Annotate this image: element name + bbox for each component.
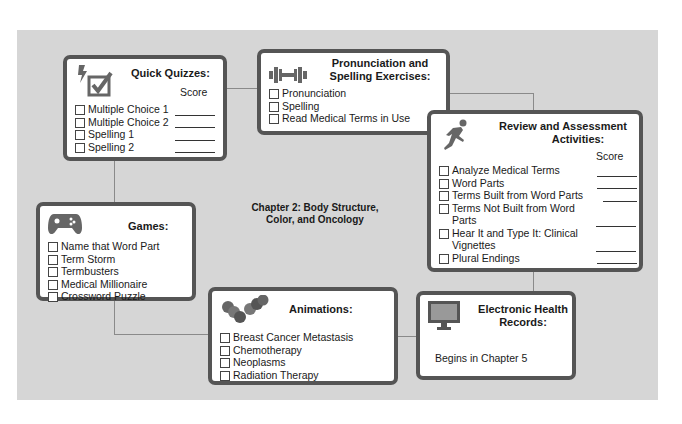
checkbox[interactable] — [48, 255, 58, 265]
ehr-title: Electronic Health Records: — [478, 303, 568, 328]
checkbox[interactable] — [439, 204, 449, 214]
list-item[interactable]: Spelling 1 — [75, 128, 215, 141]
list-item[interactable]: Name that Word Part — [48, 240, 193, 253]
animations-box: Animations: Breast Cancer Metastasis Che… — [208, 287, 398, 385]
list-item[interactable]: Analyze Medical Terms — [439, 164, 637, 177]
checkbox[interactable] — [439, 254, 449, 264]
checkbox[interactable] — [439, 229, 449, 239]
pronunciation-box: Pronunciation and Spelling Exercises: Pr… — [257, 49, 450, 135]
checkbox[interactable] — [220, 358, 230, 368]
list-item[interactable]: Pronunciation — [269, 87, 449, 100]
checkbox[interactable] — [220, 333, 230, 343]
running-person-icon — [439, 118, 473, 155]
list-item[interactable]: Plural Endings — [439, 252, 637, 265]
list-item[interactable]: Radiation Therapy — [220, 369, 395, 382]
score-blank — [175, 105, 215, 116]
games-list: Name that Word Part Term Storm Termbuste… — [48, 240, 193, 303]
score-blank — [597, 253, 637, 264]
list-item[interactable]: Multiple Choice 1 — [75, 103, 215, 116]
score-blank — [175, 130, 215, 141]
gamepad-icon — [48, 212, 82, 239]
ehr-box: Electronic Health Records: Begins in Cha… — [416, 291, 576, 380]
pronunciation-title: Pronunciation and Spelling Exercises: — [315, 57, 445, 82]
connector-pronunciation-review-h — [450, 93, 533, 94]
lightning-checkbox-icon — [75, 63, 115, 102]
checkbox[interactable] — [269, 102, 279, 112]
connector-games-animations-v — [114, 300, 115, 334]
list-item[interactable]: Hear It and Type It: Clinical Vignettes — [439, 227, 637, 252]
checkbox[interactable] — [48, 280, 58, 290]
connector-quizzes-games — [114, 160, 115, 205]
checkbox[interactable] — [75, 118, 85, 128]
score-blank — [175, 142, 215, 153]
checkbox[interactable] — [439, 179, 449, 189]
list-item[interactable]: Terms Not Built from Word Parts — [439, 202, 637, 227]
list-item[interactable]: Terms Built from Word Parts — [439, 189, 637, 202]
checkbox[interactable] — [220, 371, 230, 381]
review-title: Review and Assessment Activities: — [483, 120, 643, 145]
connector-animations-ehr — [398, 336, 418, 337]
review-box: Review and Assessment Activities: Score … — [427, 110, 643, 272]
connector-review-ehr — [533, 270, 534, 292]
checkbox[interactable] — [439, 166, 449, 176]
cells-icon — [220, 295, 270, 328]
list-item[interactable]: Multiple Choice 2 — [75, 116, 215, 129]
checkbox[interactable] — [269, 114, 279, 124]
games-box: Games: Name that Word Part Term Storm Te… — [36, 202, 196, 301]
score-blank — [603, 191, 637, 202]
quick-quizzes-box: Quick Quizzes: Score Multiple Choice 1 M… — [63, 55, 227, 161]
list-item[interactable]: Word Parts — [439, 177, 637, 190]
dumbbell-icon — [269, 65, 307, 88]
games-title: Games: — [128, 220, 168, 233]
checkbox[interactable] — [48, 267, 58, 277]
animations-list: Breast Cancer Metastasis Chemotherapy Ne… — [220, 331, 395, 381]
checkbox[interactable] — [48, 242, 58, 252]
ehr-note: Begins in Chapter 5 — [435, 352, 527, 365]
score-header: Score — [596, 150, 623, 163]
list-item[interactable]: Breast Cancer Metastasis — [220, 331, 395, 344]
score-blank — [597, 178, 637, 189]
checkbox[interactable] — [439, 191, 449, 201]
quick-quizzes-title: Quick Quizzes: — [131, 67, 210, 80]
list-item[interactable]: Termbusters — [48, 265, 193, 278]
checkbox[interactable] — [75, 105, 85, 115]
review-list: Analyze Medical Terms Word Parts Terms B… — [439, 164, 637, 264]
score-blank — [596, 241, 636, 252]
list-item[interactable]: Spelling 2 — [75, 141, 215, 154]
monitor-icon — [428, 301, 460, 334]
score-blank — [596, 216, 636, 227]
checkbox[interactable] — [269, 89, 279, 99]
chapter-title: Chapter 2: Body Structure, Color, and On… — [225, 202, 405, 226]
checkbox[interactable] — [48, 292, 58, 302]
list-item[interactable]: Crossword Puzzle — [48, 290, 193, 303]
list-item[interactable]: Term Storm — [48, 253, 193, 266]
list-item[interactable]: Neoplasms — [220, 356, 395, 369]
checkbox[interactable] — [75, 130, 85, 140]
connector-quizzes-pronunciation — [226, 88, 260, 89]
connector-games-animations-h — [114, 334, 210, 335]
list-item[interactable]: Chemotherapy — [220, 344, 395, 357]
list-item[interactable]: Medical Millionaire — [48, 278, 193, 291]
list-item[interactable]: Spelling — [269, 100, 449, 113]
quick-quizzes-list: Multiple Choice 1 Multiple Choice 2 Spel… — [75, 103, 215, 153]
checkbox[interactable] — [75, 143, 85, 153]
score-blank — [175, 117, 215, 128]
animations-title: Animations: — [289, 303, 353, 316]
pronunciation-list: Pronunciation Spelling Read Medical Term… — [269, 87, 449, 125]
list-item[interactable]: Read Medical Terms in Use — [269, 112, 449, 125]
checkbox[interactable] — [220, 346, 230, 356]
score-blank — [597, 166, 637, 177]
score-header: Score — [180, 86, 207, 99]
